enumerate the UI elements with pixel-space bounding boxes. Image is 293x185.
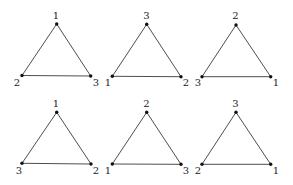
vertex-label-top: 3 (143, 10, 149, 21)
vertex-label-top: 2 (143, 98, 149, 109)
vertex-label-bottom-left: 2 (14, 77, 20, 88)
triangle-edges (202, 25, 271, 77)
vertex-dot-top (55, 111, 58, 114)
triangle-t6: 321 (195, 98, 279, 177)
vertex-dot-top (55, 22, 58, 25)
vertex-label-bottom-left: 3 (195, 77, 201, 88)
triangle-edges (112, 112, 181, 164)
vertex-dot-bottom-left (20, 74, 23, 77)
vertex-label-top: 2 (232, 10, 238, 21)
vertex-label-bottom-left: 2 (195, 165, 201, 176)
triangle-edges (22, 24, 91, 76)
vertex-dot-top (234, 23, 237, 26)
vertex-label-top: 3 (232, 98, 238, 109)
triangle-edges (202, 112, 271, 164)
triangle-t3: 231 (195, 10, 279, 88)
vertex-label-top: 1 (53, 98, 59, 109)
triangle-edges (22, 112, 91, 164)
triangle-t4: 132 (16, 98, 99, 176)
triangle-labelings-diagram: 123 312 231 132 213 321 (0, 0, 293, 185)
vertex-label-bottom-right: 1 (273, 165, 279, 176)
vertex-label-bottom-right: 3 (183, 165, 189, 176)
vertex-label-bottom-right: 3 (93, 77, 99, 88)
vertex-label-bottom-left: 1 (105, 77, 111, 88)
vertex-label-bottom-left: 1 (105, 165, 111, 176)
vertex-label-bottom-left: 3 (16, 165, 22, 176)
vertex-dot-top (145, 23, 148, 26)
vertex-label-bottom-right: 2 (93, 165, 99, 176)
triangle-t2: 312 (105, 10, 189, 89)
vertex-label-bottom-right: 1 (273, 77, 279, 88)
triangle-t1: 123 (14, 10, 99, 89)
vertex-label-top: 1 (53, 10, 59, 21)
vertex-dot-top (234, 111, 237, 114)
triangle-t5: 213 (105, 98, 189, 177)
vertex-label-bottom-right: 2 (183, 77, 189, 88)
triangle-edges (112, 24, 181, 76)
vertex-dot-top (145, 111, 148, 114)
